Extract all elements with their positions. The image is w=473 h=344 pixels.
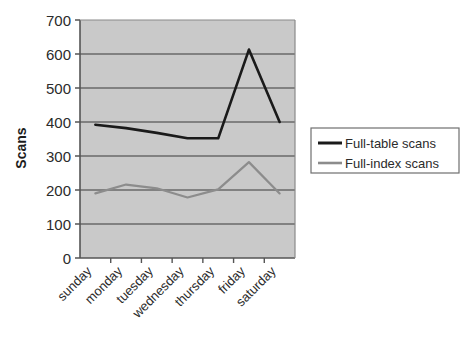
- y-axis-tick-label: 500: [46, 80, 71, 97]
- y-axis-tick-label: 400: [46, 114, 71, 131]
- line-chart-figure: 0100200300400500600700 sundaymondaytuesd…: [0, 0, 473, 344]
- y-axis-title: Scans: [13, 127, 29, 168]
- legend-label-2: Full-index scans: [345, 156, 439, 171]
- legend-label-1: Full-table scans: [345, 136, 437, 151]
- y-axis-tick-label: 300: [46, 148, 71, 165]
- y-axis-tick-label: 600: [46, 46, 71, 63]
- chart-svg: 0100200300400500600700 sundaymondaytuesd…: [0, 0, 473, 344]
- y-axis-tick-label: 0: [63, 250, 71, 267]
- y-axis-tick-label: 100: [46, 216, 71, 233]
- chart-legend: Full-table scansFull-index scans: [311, 128, 459, 173]
- y-axis-tick-label: 700: [46, 12, 71, 29]
- y-axis-tick-label: 200: [46, 182, 71, 199]
